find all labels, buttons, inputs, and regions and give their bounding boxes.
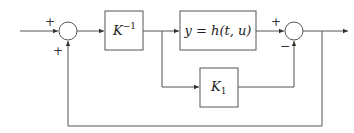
- sum2-top-sign: +: [271, 15, 281, 29]
- summing-junction-1: [59, 22, 77, 40]
- k-inverse-sup: −1: [123, 21, 136, 31]
- k-inverse-block: K−1: [105, 11, 143, 50]
- k1-sub: 1: [221, 86, 227, 96]
- k1-block: K1: [200, 68, 238, 107]
- summing-junction-2: [285, 22, 303, 40]
- sum1-bottom-sign: +: [53, 44, 63, 58]
- sum1-top-sign: +: [45, 15, 55, 29]
- sum2-bottom-sign: −: [280, 39, 290, 53]
- block-diagram: + + K−1 y = h(t, u) + − K1: [0, 0, 354, 133]
- plant-block: y = h(t, u): [180, 11, 256, 50]
- plant-label: y = h(t, u): [184, 23, 252, 38]
